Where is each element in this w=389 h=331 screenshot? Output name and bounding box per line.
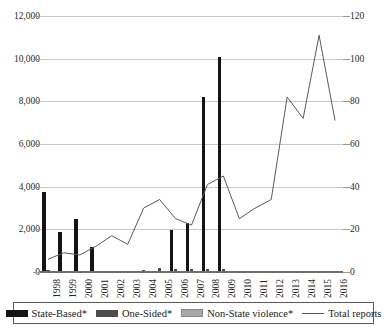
y-axis-right-tick-mark [343,101,350,102]
x-axis-label-2004: 2004 [148,279,158,298]
chart-legend: State-Based*One-Sided*Non-State violence… [13,302,374,324]
x-axis-label-1998: 1998 [52,279,62,298]
chart-root: 02,0004,0006,0008,00010,00012,000 020406… [0,0,389,331]
y-axis-left-tick-mark [33,101,40,102]
y-axis-right-tick-label: 60 [350,139,360,149]
x-axis-label-2003: 2003 [132,279,142,298]
legend-label: Non-State violence* [207,308,293,319]
y-axis-left-tick-mark [33,272,40,273]
x-axis-label-2012: 2012 [275,279,285,298]
legend-swatch-onesided-icon [96,310,118,317]
x-axis-label-2008: 2008 [211,279,221,298]
x-axis-label-2010: 2010 [243,279,253,298]
legend-swatch-state-icon [6,310,28,317]
legend-swatch-nonstate-icon [181,309,203,317]
plot-area [40,16,343,272]
x-axis-label-2007: 2007 [196,279,206,298]
y-axis-right-tick-label: 120 [350,11,364,21]
y-axis-right-tick-mark [343,59,350,60]
y-axis-right-tick-mark [343,229,350,230]
total-reports-polyline [48,35,335,259]
x-axis-label-1999: 1999 [68,279,78,298]
y-axis-right-tick-label: 20 [350,224,360,234]
y-axis-left-tick-mark [33,16,40,17]
y-axis-right-tick-mark [343,144,350,145]
y-axis-left-tick-mark [33,59,40,60]
legend-label: One-Sided* [122,308,172,319]
y-axis-right-tick-label: 40 [350,182,360,192]
x-axis-label-2009: 2009 [227,279,237,298]
gridline [40,272,343,273]
x-axis-label-2015: 2015 [323,279,333,298]
x-axis-label-2005: 2005 [164,279,174,298]
legend-item-nonstate[interactable]: Non-State violence* [181,308,293,319]
y-axis-left-tick-mark [33,187,40,188]
x-axis-label-2006: 2006 [180,279,190,298]
x-axis-label-2002: 2002 [116,279,126,298]
y-axis-right-tick-label: 100 [350,54,364,64]
legend-item-line[interactable]: Total reports [302,308,381,319]
x-axis-label-2000: 2000 [84,279,94,298]
legend-item-onesided[interactable]: One-Sided* [96,308,172,319]
y-axis-right-tick-mark [343,187,350,188]
x-axis-label-2013: 2013 [291,279,301,298]
legend-label: Total reports [328,308,381,319]
x-axis-label-2011: 2011 [259,279,269,298]
x-axis-label-2001: 2001 [100,279,110,298]
total-reports-line [40,16,343,272]
y-axis-right-tick-mark [343,272,350,273]
y-axis-left-tick-mark [33,144,40,145]
x-axis-label-2014: 2014 [307,279,317,298]
legend-label: State-Based* [32,308,87,319]
legend-item-state[interactable]: State-Based* [6,308,87,319]
legend-swatch-line-icon [302,310,324,317]
x-axis-labels: 1998199920002001200220032004200520062007… [40,274,343,300]
x-axis-line [40,271,343,272]
y-axis-right-tick-label: 0 [350,267,355,277]
y-axis-right-tick-mark [343,16,350,17]
x-axis-label-2016: 2016 [339,279,349,298]
y-axis-right-tick-label: 80 [350,96,360,106]
y-axis-left-tick-mark [33,229,40,230]
